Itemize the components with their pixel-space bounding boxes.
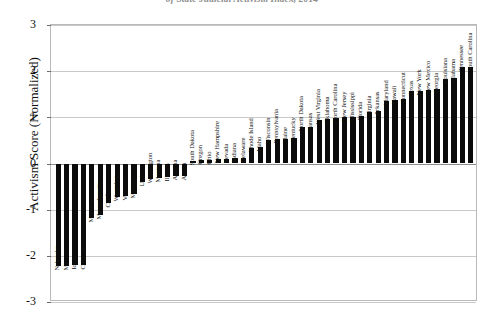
bar <box>434 89 439 164</box>
bar <box>376 111 381 164</box>
bar-category-label: Delaware <box>240 138 247 163</box>
y-axis-title: Activism Score (Normalized) <box>26 14 42 254</box>
bar-category-label: California <box>105 182 112 208</box>
bar-category-label: North Dakota <box>299 97 306 132</box>
bar-category-label: Tennessee <box>459 45 466 72</box>
bar-category-label: Texas <box>408 81 415 96</box>
y-tick-label: -2 <box>8 248 36 263</box>
bar-category-label: Minnesota <box>63 243 70 270</box>
bar-category-label: Maryland <box>383 80 390 105</box>
bar <box>392 100 397 164</box>
y-tick-label: 2 <box>8 63 36 78</box>
bar-category-label: Kentucky <box>290 117 297 142</box>
bar <box>72 164 77 266</box>
bar-category-label: Oklahoma <box>324 97 331 124</box>
bars-layer: NebraskaMinnesotaIowaColoradoMissouriMas… <box>51 25 476 300</box>
y-tick-label: -3 <box>8 294 36 309</box>
bar-category-label: Wyoming <box>114 176 121 202</box>
bar-category-label: Mississippi <box>349 92 356 122</box>
bar-category-label: New Mexico <box>425 60 432 94</box>
bar-category-label: Kansas <box>307 112 314 131</box>
bar <box>308 127 313 164</box>
bar-category-label: Louisiana <box>442 58 449 84</box>
bar <box>350 117 355 164</box>
bar <box>460 67 465 164</box>
bar-category-label: Vermont <box>122 178 129 200</box>
bar-category-label: North Carolina <box>333 84 340 123</box>
bar-category-label: New York <box>417 69 424 95</box>
chart-title: of State Judicial Activism Index, 2014 <box>0 0 484 6</box>
bar-category-label: Connecticut <box>400 72 407 103</box>
bar <box>300 127 305 163</box>
bar-category-label: South Dakota <box>189 130 196 165</box>
bar <box>409 91 414 163</box>
plot-area: 3210-1-2-3 NebraskaMinnesotaIowaColorado… <box>50 24 477 301</box>
y-tick-label: 1 <box>8 109 36 124</box>
bar-category-label: Arkansas <box>375 91 382 115</box>
y-tick-label: 0 <box>8 156 36 171</box>
bar-category-label: Arizona <box>173 160 180 181</box>
bar-category-label: Indiana <box>232 144 239 163</box>
bar-category-label: Pennsylvania <box>274 110 281 145</box>
bar-category-label: Montana <box>156 160 163 183</box>
bar <box>401 99 406 164</box>
bar <box>317 120 322 163</box>
y-tick-label: 3 <box>8 17 36 32</box>
chart-figure: of State Judicial Activism Index, 2014 A… <box>0 0 484 326</box>
bar-category-label: Hawaii <box>392 86 399 105</box>
bar-category-label: Nebraska <box>55 246 62 271</box>
bar <box>325 119 330 163</box>
y-tick-mark <box>47 302 51 303</box>
bar <box>359 116 364 163</box>
y-tick-label: -1 <box>8 202 36 217</box>
bar <box>333 118 338 163</box>
bar-category-label: Ohio <box>206 151 213 164</box>
bar-category-label: Missouri <box>88 200 95 223</box>
bar <box>451 78 456 164</box>
bar-category-label: Nevada <box>223 144 230 164</box>
bar <box>384 101 389 164</box>
bar-category-label: Iowa <box>72 257 79 270</box>
bar-category-label: Rhode Island <box>248 118 255 152</box>
bar <box>342 117 347 163</box>
gridline--3 <box>51 302 476 303</box>
bar-category-label: Washington <box>147 153 154 184</box>
bar-category-label: New Hampshire <box>215 122 222 164</box>
bar-category-label: Oregon <box>198 145 205 164</box>
bar-category-label: New Jersey <box>341 92 348 122</box>
bar-category-label: Illinois <box>164 164 171 182</box>
bar-category-label: Alabama <box>450 59 457 82</box>
bar-category-label: Florida <box>358 102 365 121</box>
bar-category-label: South Carolina <box>467 32 474 71</box>
bar-category-label: Virginia <box>366 95 373 116</box>
bar-category-label: Utah <box>139 174 146 187</box>
bar <box>443 79 448 164</box>
bar-category-label: Michigan <box>130 174 137 199</box>
bar <box>468 67 473 164</box>
bar-category-label: Maine <box>282 127 289 144</box>
bar <box>367 112 372 164</box>
bar <box>418 91 423 164</box>
bar-category-label: West Virginia <box>316 89 323 124</box>
bar-category-label: Georgia <box>434 73 441 94</box>
bar-category-label: Colorado <box>80 246 87 270</box>
bar-category-label: Alaska <box>181 162 188 180</box>
bar-category-label: Massachusetts <box>97 182 104 219</box>
bar <box>426 90 431 164</box>
bar-category-label: Idaho <box>257 137 264 152</box>
bar-category-label: Wisconsin <box>265 118 272 145</box>
